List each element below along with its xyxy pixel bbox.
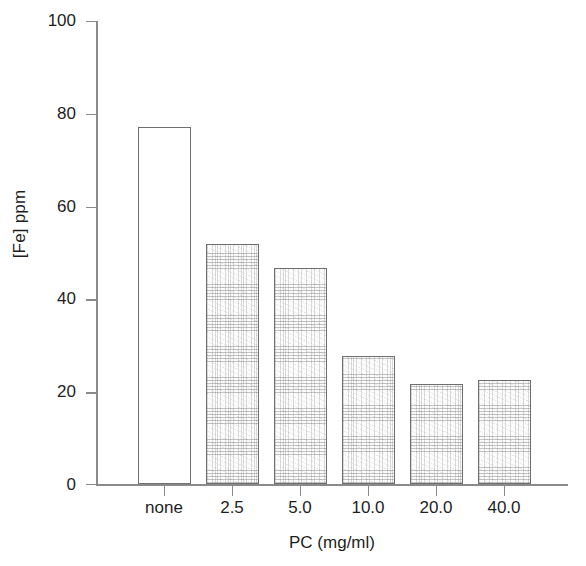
bar-5-0 [274,268,327,484]
bar-40-0 [478,380,531,484]
bar-2-5 [206,244,259,484]
bar-series [0,0,586,566]
x-tick-label-40-0: 40.0 [454,498,554,518]
x-axis-title: PC (mg/ml) [96,533,568,553]
bar-chart-figure: [Fe] ppm 100 80 60 40 20 0 none 2.5 5.0 … [0,0,586,566]
bar-20-0 [410,384,463,484]
bar-10-0 [342,356,395,484]
bar-none [138,127,191,484]
